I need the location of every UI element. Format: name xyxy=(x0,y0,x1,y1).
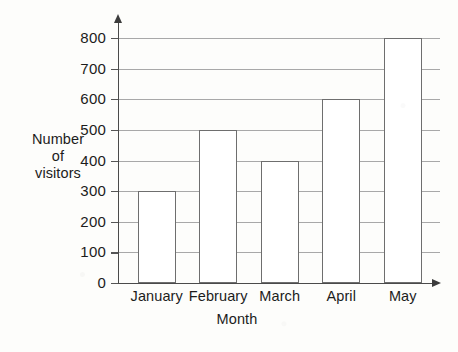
bar-may xyxy=(384,38,422,283)
x-axis-arrow-icon xyxy=(432,279,441,287)
bar-chart: Number of visitors 010020030040050060070… xyxy=(0,0,458,352)
y-axis-tick-label: 700 xyxy=(62,60,106,77)
y-axis-tick-label: 100 xyxy=(62,243,106,260)
y-axis-tick-label: 200 xyxy=(62,213,106,230)
y-axis-line xyxy=(118,21,119,284)
x-axis-line xyxy=(118,283,434,284)
y-axis-tick-label: 0 xyxy=(62,274,106,291)
y-axis-tick-label: 500 xyxy=(62,121,106,138)
y-axis-tick-label: 600 xyxy=(62,90,106,107)
y-axis-tick-label: 300 xyxy=(62,182,106,199)
x-axis-title: Month xyxy=(0,311,458,327)
bar-january xyxy=(138,191,176,283)
bar-april xyxy=(322,99,360,283)
x-axis-tick-label: May xyxy=(364,288,442,304)
bar-march xyxy=(261,161,299,284)
y-axis-tick-label: 800 xyxy=(62,29,106,46)
bar-february xyxy=(199,130,237,283)
y-axis-tick-label: 400 xyxy=(62,152,106,169)
x-axis-title-text: Month xyxy=(217,311,258,327)
y-axis-arrow-icon xyxy=(114,14,122,23)
